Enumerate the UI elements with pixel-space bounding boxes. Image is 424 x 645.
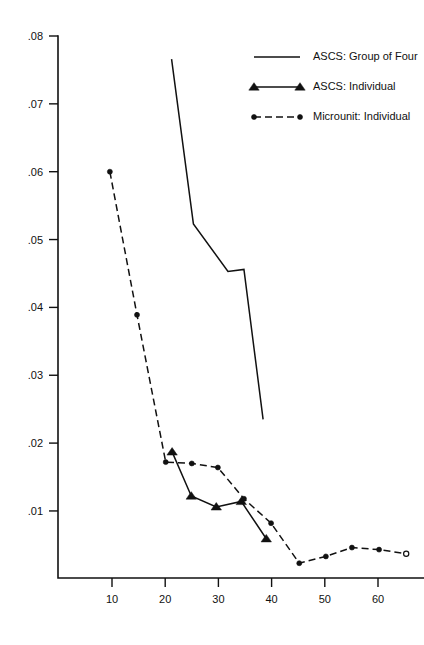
y-tick-label: .06 (28, 166, 43, 178)
x-tick-label: 40 (265, 593, 277, 605)
x-tick-label: 20 (159, 593, 171, 605)
x-tick-label: 60 (372, 593, 384, 605)
data-point-dot (135, 312, 140, 317)
line-chart: .01.02.03.04.05.06.07.08 102030405060 AS… (0, 0, 424, 645)
legend-label: ASCS: Individual (313, 80, 396, 92)
data-point-open-circle (404, 551, 409, 556)
data-point-dot (252, 115, 257, 120)
data-point-dot (377, 547, 382, 552)
y-tick-label: .08 (28, 30, 43, 42)
y-tick-label: .01 (28, 505, 43, 517)
data-point-dot (215, 465, 220, 470)
legend-label: ASCS: Group of Four (313, 50, 418, 62)
x-axis-ticks: 102030405060 (106, 578, 384, 605)
legend-item-1: ASCS: Individual (249, 80, 396, 92)
legend-item-0: ASCS: Group of Four (254, 50, 418, 62)
series-line (172, 452, 266, 539)
data-point-dot (297, 561, 302, 566)
legend-label: Microunit: Individual (313, 110, 410, 122)
y-tick-label: .05 (28, 234, 43, 246)
series-2 (107, 169, 408, 565)
chart-legend: ASCS: Group of FourASCS: IndividualMicro… (249, 50, 418, 122)
legend-item-2: Microunit: Individual (252, 110, 411, 122)
data-point-dot (298, 115, 303, 120)
data-point-dot (323, 554, 328, 559)
data-point-dot (189, 461, 194, 466)
data-point-dot (241, 496, 246, 501)
data-point-dot (269, 521, 274, 526)
series-line (172, 59, 264, 419)
x-tick-label: 10 (106, 593, 118, 605)
data-point-triangle (186, 492, 196, 499)
data-point-dot (107, 169, 112, 174)
y-axis-ticks: .01.02.03.04.05.06.07.08 (28, 30, 58, 517)
series-1 (167, 448, 272, 542)
data-point-triangle (261, 534, 271, 541)
y-tick-label: .03 (28, 369, 43, 381)
series-line (110, 172, 406, 563)
y-tick-label: .02 (28, 437, 43, 449)
y-tick-label: .07 (28, 98, 43, 110)
chart-container: .01.02.03.04.05.06.07.08 102030405060 AS… (0, 0, 424, 645)
data-point-dot (349, 545, 354, 550)
series-0 (172, 59, 264, 419)
x-tick-label: 50 (319, 593, 331, 605)
x-tick-label: 30 (212, 593, 224, 605)
data-point-triangle (167, 448, 177, 455)
chart-series (107, 59, 408, 566)
y-tick-label: .04 (28, 301, 43, 313)
data-point-dot (163, 460, 168, 465)
